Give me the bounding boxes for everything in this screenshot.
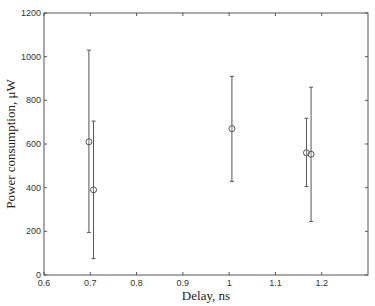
- circle-marker: [86, 139, 92, 145]
- y-tick-label: 200: [26, 226, 41, 236]
- circle-marker: [308, 151, 314, 157]
- y-tick-label: 800: [26, 95, 41, 105]
- x-axis-ticks: 0.60.70.80.911.11.2: [38, 13, 328, 288]
- errorbar-point: [308, 87, 314, 221]
- y-tick-label: 1200: [21, 8, 41, 18]
- x-axis-title: Delay, ns: [182, 288, 230, 303]
- y-tick-label: 1000: [21, 52, 41, 62]
- y-axis-ticks: 020040060080010001200: [21, 8, 368, 280]
- y-tick-label: 400: [26, 183, 41, 193]
- data-points: [86, 50, 314, 259]
- plot-border: [44, 13, 368, 275]
- circle-marker: [91, 187, 97, 193]
- x-tick-label: 0.9: [177, 278, 190, 288]
- x-tick-label: 1.2: [315, 278, 328, 288]
- plot-frame: [44, 13, 368, 275]
- errorbar-chart: 0.60.70.80.911.11.2 02004006008001000120…: [0, 0, 375, 306]
- errorbar-point: [86, 50, 92, 232]
- x-tick-label: 0.7: [84, 278, 97, 288]
- y-tick-label: 0: [36, 270, 41, 280]
- y-axis-title: Power consumption, μW: [3, 79, 18, 209]
- x-tick-label: 1.1: [269, 278, 282, 288]
- errorbar-point: [229, 76, 235, 181]
- x-tick-label: 0.8: [130, 278, 143, 288]
- circle-marker: [229, 126, 235, 132]
- y-tick-label: 600: [26, 139, 41, 149]
- x-tick-label: 1: [227, 278, 232, 288]
